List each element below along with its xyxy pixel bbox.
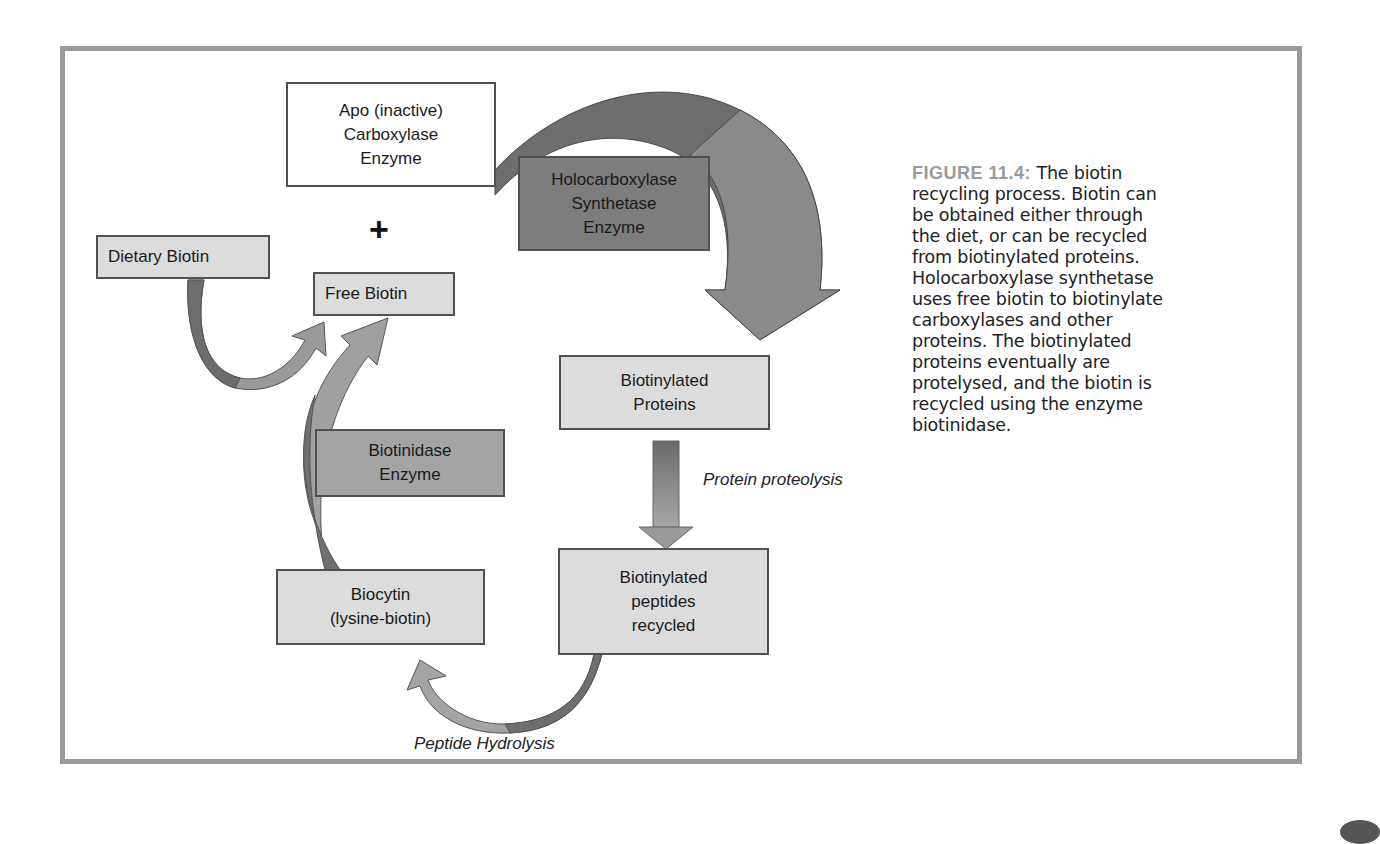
label-peptide-hydrolysis: Peptide Hydrolysis	[414, 734, 555, 754]
caption-line: biotinidase.	[912, 415, 1242, 436]
caption-line: The biotin	[1036, 163, 1122, 183]
caption-line: recycled using the enzyme	[912, 394, 1242, 415]
dietary-arrow-icon	[188, 280, 326, 390]
caption-line: proteins. The biotinylated	[912, 331, 1242, 352]
node-biotinylated-proteins: Biotinylated Proteins	[559, 355, 770, 430]
node-apo-carboxylase: Apo (inactive) Carboxylase Enzyme	[286, 82, 496, 187]
proteolysis-arrow-icon	[639, 441, 693, 549]
caption-line: Holocarboxylase synthetase	[912, 268, 1242, 289]
plus-sign: +	[369, 212, 389, 246]
caption-line: proteins eventually are	[912, 352, 1242, 373]
hydrolysis-arrow-icon	[407, 654, 602, 733]
node-biotinidase-enzyme: Biotinidase Enzyme	[315, 429, 505, 497]
node-holocarboxylase-synthetase: Holocarboxylase Synthetase Enzyme	[518, 156, 710, 251]
caption-line: uses free biotin to biotinylate	[912, 289, 1242, 310]
node-biocytin: Biocytin (lysine-biotin)	[276, 569, 485, 645]
caption-line: protelysed, and the biotin is	[912, 373, 1242, 394]
node-free-biotin: Free Biotin	[313, 272, 455, 316]
caption-line: carboxylases and other	[912, 310, 1242, 331]
caption-line: from biotinylated proteins.	[912, 247, 1242, 268]
page-corner-mark	[1340, 820, 1380, 844]
node-biotinylated-peptides: Biotinylated peptides recycled	[558, 548, 769, 655]
figure-caption: FIGURE 11.4: The biotin recycling proces…	[912, 163, 1242, 436]
caption-line: be obtained either through	[912, 205, 1242, 226]
figure-label: FIGURE 11.4:	[912, 163, 1031, 183]
node-dietary-biotin: Dietary Biotin	[96, 235, 270, 279]
caption-line: the diet, or can be recycled	[912, 226, 1242, 247]
label-protein-proteolysis: Protein proteolysis	[703, 470, 843, 490]
caption-line: recycling process. Biotin can	[912, 184, 1242, 205]
